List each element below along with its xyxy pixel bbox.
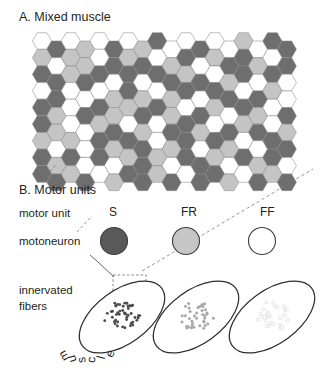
row-label-motoneuron: motoneuron [19, 236, 80, 248]
muscle-fiber-dot [137, 314, 140, 317]
muscle-fiber-dot [184, 314, 187, 317]
row-label-innervated-fibers: innervated [19, 285, 73, 297]
muscle-fiber-dot [265, 301, 268, 304]
muscle-fiber-dot [276, 306, 279, 309]
muscle-fiber-dot [268, 324, 271, 327]
muscle-fiber-dot [115, 313, 118, 316]
muscle-fiber-dot [203, 321, 206, 324]
muscle-fiber-dot [279, 316, 282, 319]
motoneuron-soma-s [101, 228, 128, 255]
row-label-motor-unit: motor unit [19, 208, 70, 220]
muscle-fiber-dot [259, 312, 262, 315]
unit-type-label-ff: FF [260, 206, 275, 218]
muscle-fiber-dot [114, 319, 117, 322]
muscle-fiber-dot [130, 312, 133, 315]
muscle-fiber-dot [187, 325, 190, 328]
muscle-fiber-dot [181, 314, 184, 317]
muscle-fiber-dot [123, 326, 126, 329]
muscle-fiber-dot [113, 302, 116, 305]
muscle-fiber-dot [285, 308, 288, 311]
muscle-fiber-dot [122, 305, 125, 308]
muscle-fiber-dot [188, 307, 191, 310]
muscle-fiber-dot [131, 304, 134, 307]
muscle-fiber-dot [118, 313, 121, 316]
muscle-fiber-dot [272, 301, 275, 304]
muscle-fiber-dot [127, 307, 130, 310]
muscle-fiber-dot [187, 302, 190, 305]
row-label-innervated-fibers-cont: fibers [19, 301, 47, 313]
hexagon-grid-mixed-muscle [32, 33, 296, 191]
muscle-fiber-dot [281, 325, 284, 328]
muscle-fiber-dot [131, 321, 134, 324]
muscle-fiber-dot [286, 318, 289, 321]
muscle-fiber-dot [202, 327, 205, 330]
muscle-fiber-dot [200, 309, 203, 312]
muscle-fiber-dot [189, 310, 192, 313]
motoneuron-soma-ff [249, 228, 276, 255]
muscle-fiber-dot [198, 324, 201, 327]
muscle-fiber-dot [106, 312, 109, 315]
muscle-fiber-dot [135, 319, 138, 322]
muscle-fiber-dot [121, 309, 124, 312]
muscle-fiber-dot [204, 308, 207, 311]
muscle-fiber-dot [261, 315, 264, 318]
unit-type-label-s: S [109, 206, 117, 218]
muscle-fiber-dot [181, 321, 184, 324]
muscle-fiber-dot [267, 313, 270, 316]
muscle-fiber-dot [283, 313, 286, 316]
muscle-fiber-dot [134, 316, 137, 319]
muscle-fiber-dot [193, 314, 196, 317]
muscle-fiber-dot [184, 305, 187, 308]
muscle-fiber-dot [114, 322, 117, 325]
motoneuron-soma-fr [173, 228, 200, 255]
muscle-fiber-dot [103, 319, 106, 322]
muscle-fiber-dot [282, 305, 285, 308]
muscle-fiber-dot [262, 308, 265, 311]
motor-unit-column-group [67, 228, 327, 368]
muscle-fiber-dot [201, 305, 204, 308]
muscle-fiber-dot [111, 316, 114, 319]
muscle-territory-ellipse [217, 267, 327, 367]
muscle-fiber-dot [195, 312, 198, 315]
muscle-fiber-dot [203, 314, 206, 317]
muscle-fiber-dot [204, 324, 207, 327]
muscle-fiber-dot [129, 304, 132, 307]
connector-motoneuron-pointer [77, 216, 92, 232]
muscle-fiber-dot [272, 322, 275, 325]
muscle-fiber-dot [129, 324, 132, 327]
muscle-fiber-dot [123, 312, 126, 315]
panel-b-title: B. Motor units [19, 184, 96, 197]
muscle-fiber-dot [125, 318, 128, 321]
muscle-fiber-dot [195, 317, 198, 320]
muscle-fiber-dot [116, 303, 119, 306]
muscle-fiber-dot [257, 318, 260, 321]
muscle-fiber-dot [188, 317, 191, 320]
muscle-fiber-dot [197, 306, 200, 309]
muscle-fiber-dot [111, 310, 114, 313]
panel-a-title: A. Mixed muscle [19, 11, 111, 24]
muscle-fiber-dot [212, 317, 215, 320]
muscle-fiber-dot [123, 302, 126, 305]
connector-soma-axon [90, 255, 98, 262]
muscle-fiber-dot [206, 322, 209, 325]
unit-type-label-fr: FR [181, 206, 197, 218]
muscle-fiber-dot [264, 319, 267, 322]
muscle-fiber-dot [191, 322, 194, 325]
connector-soma-to-box [98, 262, 114, 277]
muscle-fiber-dot [116, 325, 119, 328]
muscle-fiber-dot [118, 310, 121, 313]
